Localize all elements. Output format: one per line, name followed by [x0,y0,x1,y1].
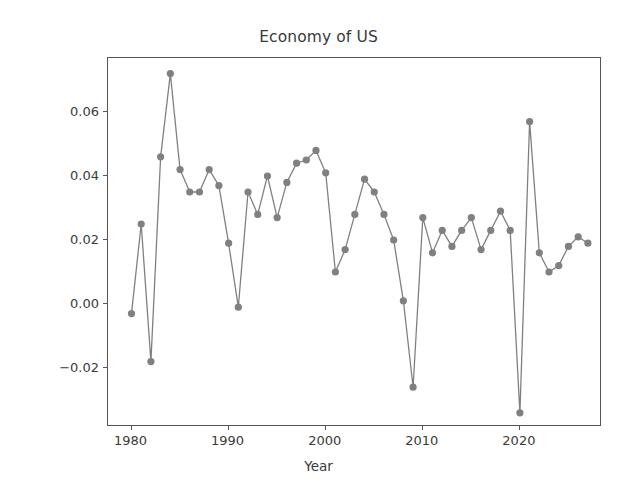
data-point [458,227,465,234]
x-tick-label: 1980 [96,433,166,448]
data-point [167,70,174,77]
data-point [176,166,183,173]
chart-title: Economy of US [0,28,637,46]
line-chart-svg [108,58,602,427]
x-tick-mark [131,426,132,430]
data-point [283,179,290,186]
x-tick-mark [325,426,326,430]
y-tick-label: −0.02 [29,360,99,375]
data-point [235,304,242,311]
y-tick-mark [103,367,107,368]
data-point [215,182,222,189]
data-point [555,262,562,269]
data-point [575,233,582,240]
data-point [128,310,135,317]
x-axis-label: Year [0,458,637,474]
data-point [196,188,203,195]
y-tick-label: 0.00 [29,296,99,311]
data-point [157,153,164,160]
data-point [448,243,455,250]
data-point [487,227,494,234]
data-point [526,118,533,125]
y-tick-mark [103,111,107,112]
x-tick-mark [422,426,423,430]
data-point [254,211,261,218]
y-tick-mark [103,175,107,176]
data-point [536,249,543,256]
data-point [565,243,572,250]
data-point [303,156,310,163]
y-tick-label: 0.04 [29,168,99,183]
data-point [439,227,446,234]
x-tick-mark [228,426,229,430]
data-point [351,211,358,218]
chart-figure: Economy of US −0.020.000.020.040.06 1980… [0,0,637,488]
data-point [400,297,407,304]
data-point [312,147,319,154]
x-tick-mark [519,426,520,430]
data-point [264,172,271,179]
y-tick-label: 0.06 [29,104,99,119]
data-point [274,214,281,221]
x-tick-label: 2020 [484,433,554,448]
data-point [342,246,349,253]
data-point [477,246,484,253]
gdp-growth-line [132,74,588,413]
data-point [371,188,378,195]
y-tick-label: 0.02 [29,232,99,247]
data-point [516,409,523,416]
x-tick-label: 2010 [387,433,457,448]
data-point [361,176,368,183]
data-point [206,166,213,173]
data-point [380,211,387,218]
data-point [244,188,251,195]
data-point [225,240,232,247]
y-tick-mark [103,239,107,240]
y-tick-mark [103,303,107,304]
data-point [186,188,193,195]
plot-area [107,57,601,426]
data-point [409,384,416,391]
data-point [147,358,154,365]
data-point [332,268,339,275]
data-point [584,240,591,247]
data-point [390,236,397,243]
data-point [293,160,300,167]
data-point [322,169,329,176]
x-tick-label: 2000 [290,433,360,448]
x-tick-label: 1990 [193,433,263,448]
data-point [419,214,426,221]
data-point [138,220,145,227]
data-point [497,208,504,215]
data-point [507,227,514,234]
data-point [545,268,552,275]
data-point [468,214,475,221]
data-point [429,249,436,256]
